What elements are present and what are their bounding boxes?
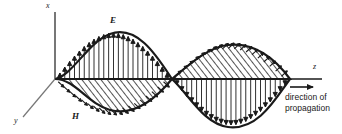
e-field-arrows-down: [175, 79, 287, 125]
y-axis-label: y: [14, 116, 18, 125]
propagation-caption-line2: propagation: [285, 103, 330, 114]
electric-field-label: E: [110, 15, 116, 25]
e-field-arrows-up: [58, 33, 169, 79]
h-lobe-left: [55, 79, 172, 111]
propagation-caption: direction of propagation: [285, 92, 330, 114]
magnetic-field-label: H: [72, 111, 79, 121]
z-axis-label: z: [313, 62, 316, 71]
em-wave-figure: x y z E H direction of propagation: [0, 0, 342, 134]
y-axis: [23, 79, 55, 117]
propagation-caption-line1: direction of: [285, 92, 330, 103]
x-axis-label: x: [46, 1, 50, 10]
